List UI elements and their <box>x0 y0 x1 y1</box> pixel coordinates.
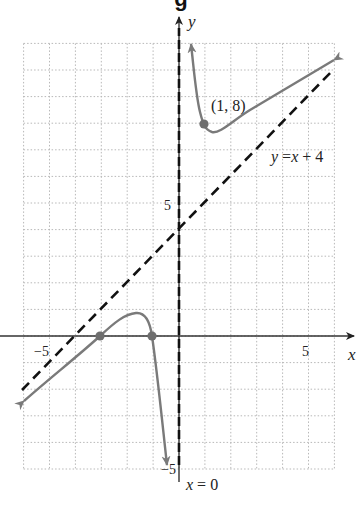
vertical-asymptote-label: x = 0 <box>185 476 218 493</box>
y-axis-label: y <box>186 12 196 31</box>
y-tick-5: 5 <box>164 198 171 213</box>
x-axis-label: x <box>347 345 356 364</box>
x-intercept-neg1 <box>147 331 156 340</box>
point-label: (1, 8) <box>211 97 246 115</box>
x-tick-5: 5 <box>302 344 309 359</box>
oblique-asymptote-label: y =x + 4 <box>269 148 323 166</box>
rational-function-graph: y x −5 5 5 −5 (1, 8) y =x + 4 x = 0 <box>0 0 362 507</box>
x-intercept-neg3 <box>95 331 104 340</box>
x-tick-neg5: −5 <box>34 344 49 359</box>
y-tick-neg5: −5 <box>161 462 176 477</box>
point-1-8 <box>199 119 208 128</box>
curve-right-branch <box>191 44 334 132</box>
